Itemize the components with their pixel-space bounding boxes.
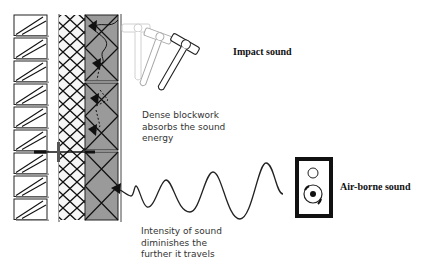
intensity-line-2: diminishes the [141, 238, 222, 250]
sound-wave [120, 163, 283, 219]
insulation-layer [58, 15, 86, 220]
speaker-icon [297, 159, 331, 216]
blockwork-line-3: energy [142, 133, 225, 145]
hammer-icon [122, 24, 200, 97]
impact-sound-label: Impact sound [233, 46, 292, 58]
blockwork-line-2: absorbs the sound [142, 122, 225, 134]
blockwork-label: Dense blockwork absorbs the sound energy [142, 110, 225, 145]
brick-outer-leaf [14, 15, 49, 221]
intensity-label: Intensity of sound diminishes the furthe… [141, 226, 222, 261]
intensity-line-3: further it travels [141, 249, 222, 261]
airborne-sound-label: Air-borne sound [340, 181, 410, 193]
blockwork-line-1: Dense blockwork [142, 110, 225, 122]
intensity-line-1: Intensity of sound [141, 226, 222, 238]
